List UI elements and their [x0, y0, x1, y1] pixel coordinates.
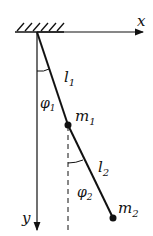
- x-axis-label: x: [137, 12, 146, 30]
- rod-1-label: l1: [64, 68, 75, 88]
- angle-arc-2: [68, 160, 83, 163]
- y-axis-label: y: [21, 209, 31, 227]
- mass-2-label: m2: [118, 199, 139, 219]
- angle-2-label: φ2: [77, 184, 93, 202]
- double-pendulum-diagram: x y l1 l2 φ1 φ2 m1 m2: [0, 0, 153, 236]
- angle-arc-1: [37, 69, 49, 71]
- rod-2-label: l2: [98, 158, 109, 178]
- mass-1-label: m1: [75, 107, 96, 127]
- ceiling-support: [15, 23, 64, 32]
- angle-1-label: φ1: [40, 95, 56, 113]
- mass-1-dot: [65, 122, 72, 129]
- mass-2-dot: [110, 215, 117, 222]
